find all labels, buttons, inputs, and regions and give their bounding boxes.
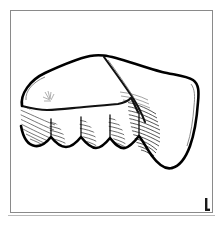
figure-root: [0, 0, 223, 225]
artifact-line-drawing: [0, 0, 223, 225]
scale-bar-foot: [205, 209, 210, 211]
